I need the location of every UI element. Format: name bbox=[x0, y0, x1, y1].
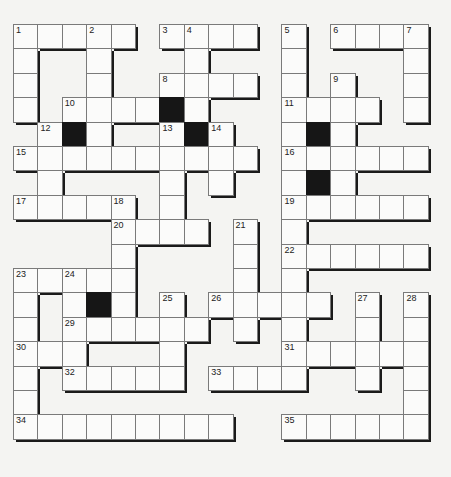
numbered-cell-32[interactable]: 32 bbox=[62, 366, 87, 391]
numbered-cell-16[interactable]: 16 bbox=[281, 146, 306, 171]
numbered-cell-20[interactable]: 20 bbox=[111, 219, 136, 244]
grid-cell[interactable] bbox=[111, 244, 136, 269]
grid-cell[interactable] bbox=[233, 292, 258, 317]
grid-cell[interactable] bbox=[355, 24, 380, 49]
grid-cell[interactable] bbox=[233, 268, 258, 293]
grid-cell[interactable] bbox=[208, 24, 233, 49]
numbered-cell-35[interactable]: 35 bbox=[281, 414, 306, 439]
grid-cell[interactable] bbox=[184, 97, 209, 122]
numbered-cell-30[interactable]: 30 bbox=[13, 341, 38, 366]
grid-cell[interactable] bbox=[403, 366, 428, 391]
grid-cell[interactable] bbox=[135, 414, 160, 439]
grid-cell[interactable] bbox=[159, 366, 184, 391]
grid-cell[interactable] bbox=[86, 48, 111, 73]
grid-cell[interactable] bbox=[37, 268, 62, 293]
grid-cell[interactable] bbox=[208, 73, 233, 98]
grid-cell[interactable] bbox=[86, 317, 111, 342]
grid-cell[interactable] bbox=[135, 146, 160, 171]
grid-cell[interactable] bbox=[159, 170, 184, 195]
grid-cell[interactable] bbox=[306, 292, 331, 317]
numbered-cell-33[interactable]: 33 bbox=[208, 366, 233, 391]
grid-cell[interactable] bbox=[403, 414, 428, 439]
grid-cell[interactable] bbox=[86, 414, 111, 439]
grid-cell[interactable] bbox=[233, 24, 258, 49]
numbered-cell-4[interactable]: 4 bbox=[184, 24, 209, 49]
grid-cell[interactable] bbox=[184, 48, 209, 73]
grid-cell[interactable] bbox=[135, 366, 160, 391]
numbered-cell-29[interactable]: 29 bbox=[62, 317, 87, 342]
grid-cell[interactable] bbox=[13, 317, 38, 342]
grid-cell[interactable] bbox=[208, 170, 233, 195]
grid-cell[interactable] bbox=[403, 317, 428, 342]
numbered-cell-9[interactable]: 9 bbox=[330, 73, 355, 98]
grid-cell[interactable] bbox=[86, 122, 111, 147]
numbered-cell-27[interactable]: 27 bbox=[355, 292, 380, 317]
grid-cell[interactable] bbox=[86, 195, 111, 220]
grid-cell[interactable] bbox=[37, 146, 62, 171]
grid-cell[interactable] bbox=[403, 48, 428, 73]
numbered-cell-14[interactable]: 14 bbox=[208, 122, 233, 147]
numbered-cell-31[interactable]: 31 bbox=[281, 341, 306, 366]
grid-cell[interactable] bbox=[37, 341, 62, 366]
grid-cell[interactable] bbox=[86, 268, 111, 293]
numbered-cell-21[interactable]: 21 bbox=[233, 219, 258, 244]
numbered-cell-15[interactable]: 15 bbox=[13, 146, 38, 171]
grid-cell[interactable] bbox=[306, 146, 331, 171]
grid-cell[interactable] bbox=[306, 414, 331, 439]
grid-cell[interactable] bbox=[184, 414, 209, 439]
grid-cell[interactable] bbox=[233, 146, 258, 171]
grid-cell[interactable] bbox=[330, 146, 355, 171]
numbered-cell-17[interactable]: 17 bbox=[13, 195, 38, 220]
grid-cell[interactable] bbox=[159, 414, 184, 439]
grid-cell[interactable] bbox=[233, 366, 258, 391]
grid-cell[interactable] bbox=[403, 341, 428, 366]
numbered-cell-8[interactable]: 8 bbox=[159, 73, 184, 98]
grid-cell[interactable] bbox=[306, 195, 331, 220]
grid-cell[interactable] bbox=[379, 341, 404, 366]
grid-cell[interactable] bbox=[379, 146, 404, 171]
grid-cell[interactable] bbox=[257, 292, 282, 317]
grid-cell[interactable] bbox=[159, 341, 184, 366]
grid-cell[interactable] bbox=[355, 146, 380, 171]
grid-cell[interactable] bbox=[62, 341, 87, 366]
grid-cell[interactable] bbox=[355, 244, 380, 269]
numbered-cell-10[interactable]: 10 bbox=[62, 97, 87, 122]
grid-cell[interactable] bbox=[86, 97, 111, 122]
grid-cell[interactable] bbox=[233, 73, 258, 98]
numbered-cell-1[interactable]: 1 bbox=[13, 24, 38, 49]
grid-cell[interactable] bbox=[62, 414, 87, 439]
numbered-cell-25[interactable]: 25 bbox=[159, 292, 184, 317]
grid-cell[interactable] bbox=[111, 24, 136, 49]
grid-cell[interactable] bbox=[37, 414, 62, 439]
grid-cell[interactable] bbox=[306, 341, 331, 366]
numbered-cell-12[interactable]: 12 bbox=[37, 122, 62, 147]
numbered-cell-7[interactable]: 7 bbox=[403, 24, 428, 49]
grid-cell[interactable] bbox=[159, 195, 184, 220]
grid-cell[interactable] bbox=[111, 146, 136, 171]
numbered-cell-13[interactable]: 13 bbox=[159, 122, 184, 147]
grid-cell[interactable] bbox=[86, 366, 111, 391]
grid-cell[interactable] bbox=[135, 97, 160, 122]
grid-cell[interactable] bbox=[62, 292, 87, 317]
grid-cell[interactable] bbox=[330, 97, 355, 122]
grid-cell[interactable] bbox=[13, 97, 38, 122]
grid-cell[interactable] bbox=[306, 97, 331, 122]
grid-cell[interactable] bbox=[111, 366, 136, 391]
numbered-cell-28[interactable]: 28 bbox=[403, 292, 428, 317]
grid-cell[interactable] bbox=[111, 97, 136, 122]
grid-cell[interactable] bbox=[379, 195, 404, 220]
grid-cell[interactable] bbox=[13, 48, 38, 73]
grid-cell[interactable] bbox=[330, 244, 355, 269]
grid-cell[interactable] bbox=[13, 292, 38, 317]
grid-cell[interactable] bbox=[355, 195, 380, 220]
grid-cell[interactable] bbox=[281, 219, 306, 244]
grid-cell[interactable] bbox=[330, 195, 355, 220]
grid-cell[interactable] bbox=[281, 268, 306, 293]
grid-cell[interactable] bbox=[281, 170, 306, 195]
grid-cell[interactable] bbox=[379, 244, 404, 269]
grid-cell[interactable] bbox=[330, 414, 355, 439]
grid-cell[interactable] bbox=[403, 244, 428, 269]
grid-cell[interactable] bbox=[379, 24, 404, 49]
grid-cell[interactable] bbox=[184, 146, 209, 171]
numbered-cell-18[interactable]: 18 bbox=[111, 195, 136, 220]
